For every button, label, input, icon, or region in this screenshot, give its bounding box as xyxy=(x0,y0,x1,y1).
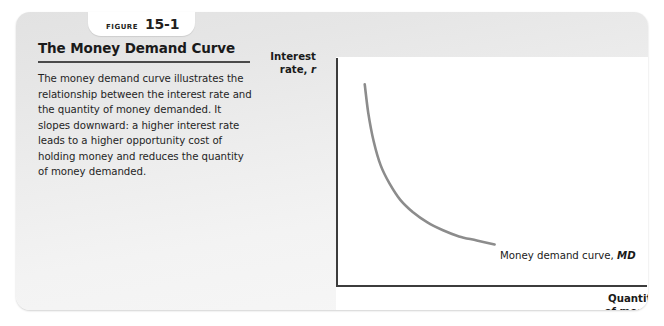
figure-text-column: The Money Demand Curve The money demand … xyxy=(38,40,252,180)
figure-tab-number: 15-1 xyxy=(145,16,179,32)
x-axis-label-line2: of money xyxy=(605,306,648,310)
figure-title: The Money Demand Curve xyxy=(38,40,252,61)
x-axis-label-line1: Quantity xyxy=(608,293,648,304)
y-axis-label: Interest rate, r xyxy=(226,50,316,76)
curve-label-text: Money demand curve, xyxy=(500,250,614,261)
title-divider xyxy=(38,61,250,63)
figure-caption-text: The money demand curve illustrates the r… xyxy=(38,71,252,180)
y-axis-variable: r xyxy=(311,64,316,75)
curve-label: Money demand curve, MD xyxy=(500,250,636,261)
curve-label-variable: MD xyxy=(617,250,636,261)
y-axis-label-line2: rate, xyxy=(280,64,308,75)
figure-card: FIGURE 15-1 The Money Demand Curve The m… xyxy=(16,12,648,310)
money-demand-curve-path xyxy=(365,84,495,244)
x-axis-label: Quantity of money xyxy=(578,292,648,310)
y-axis-label-line1: Interest xyxy=(270,51,316,62)
chart-panel: Interest rate, r Money demand curve, MD … xyxy=(320,40,635,298)
figure-tab-word: FIGURE xyxy=(106,20,138,31)
figure-number-tab: FIGURE 15-1 xyxy=(88,12,195,36)
